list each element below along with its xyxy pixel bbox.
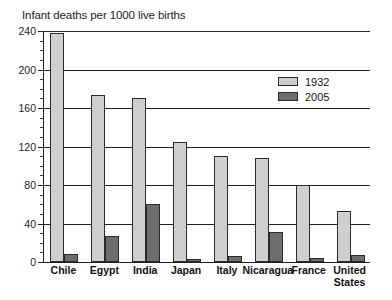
y-tick-70: [40, 195, 43, 196]
y-axis-label-0: 0: [30, 256, 36, 268]
bar: [269, 232, 283, 262]
bar-group: [337, 31, 365, 262]
chart-legend: 19322005: [278, 74, 360, 104]
y-tick-110: [40, 156, 43, 157]
bar: [228, 256, 242, 262]
y-axis-label-120: 120: [18, 141, 36, 153]
y-tick-230: [40, 41, 43, 42]
legend-entry: 1932: [278, 74, 360, 89]
bar: [296, 185, 310, 262]
y-tick-190: [40, 79, 43, 80]
bar-group: [132, 31, 160, 262]
chart-title: Infant deaths per 1000 live births: [22, 9, 185, 21]
y-tick-50: [40, 214, 43, 215]
legend-swatch-2005: [278, 92, 298, 101]
bar: [105, 236, 119, 262]
bar-group: [255, 31, 283, 262]
bar-group: [214, 31, 242, 262]
bar: [214, 156, 228, 262]
y-tick-40: [38, 224, 43, 225]
bar-group: [91, 31, 119, 262]
y-axis-label-200: 200: [18, 64, 36, 76]
y-tick-170: [40, 98, 43, 99]
y-tick-100: [40, 166, 43, 167]
y-tick-30: [40, 233, 43, 234]
bar: [64, 254, 78, 262]
bar: [173, 142, 187, 262]
y-tick-160: [38, 108, 43, 109]
y-tick-150: [40, 118, 43, 119]
bar: [187, 259, 201, 262]
y-tick-0: [38, 262, 43, 263]
bar: [146, 204, 160, 262]
bar: [91, 95, 105, 262]
bar: [132, 98, 146, 262]
y-tick-80: [38, 185, 43, 186]
bar: [337, 211, 351, 262]
bar: [310, 258, 324, 262]
y-tick-90: [40, 175, 43, 176]
y-tick-120: [38, 147, 43, 148]
y-axis-label-80: 80: [24, 179, 36, 191]
bar: [351, 255, 365, 262]
y-tick-140: [40, 127, 43, 128]
bar-group: [173, 31, 201, 262]
plot-area: 04080120160200240: [43, 31, 370, 262]
bar: [50, 33, 64, 262]
y-axis-label-160: 160: [18, 102, 36, 114]
bar-group: [50, 31, 78, 262]
x-axis-label-united-states: UnitedStates: [323, 265, 376, 288]
y-tick-180: [40, 89, 43, 90]
bar-group: [296, 31, 324, 262]
y-axis-label-40: 40: [24, 218, 36, 230]
y-tick-60: [40, 204, 43, 205]
y-tick-210: [40, 60, 43, 61]
y-tick-240: [38, 31, 43, 32]
y-tick-220: [40, 50, 43, 51]
legend-label-2005: 2005: [305, 91, 329, 103]
y-axis-label-240: 240: [18, 25, 36, 37]
y-tick-200: [38, 70, 43, 71]
y-tick-130: [40, 137, 43, 138]
bar-chart: Infant deaths per 1000 live births 04080…: [0, 0, 392, 300]
legend-label-1932: 1932: [305, 76, 329, 88]
legend-swatch-1932: [278, 77, 298, 86]
bar: [255, 158, 269, 262]
x-axis-line: [43, 262, 370, 263]
legend-entry: 2005: [278, 89, 360, 104]
y-tick-10: [40, 252, 43, 253]
y-tick-20: [40, 243, 43, 244]
